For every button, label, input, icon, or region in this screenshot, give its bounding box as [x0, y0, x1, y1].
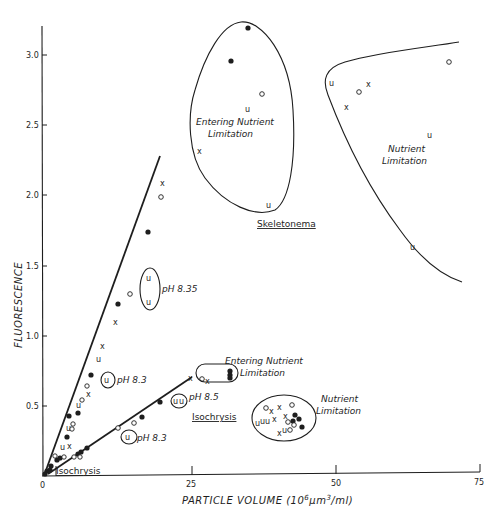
filled-circle-marker [296, 416, 301, 421]
isochrysis-entering-label-2: Limitation [240, 368, 285, 378]
open-circle-marker [288, 428, 293, 433]
x-axis [42, 472, 480, 476]
open-circle-marker [260, 92, 265, 97]
y-tick-1.0: 1.0 [26, 332, 39, 341]
open-circle-marker [116, 426, 121, 431]
skeletonema-label: Skeletonema [257, 219, 316, 229]
y-tick-2.5: 2.5 [26, 121, 39, 130]
axes: 3.0 2.5 2.0 1.5 1.0 0.5 0 25 50 75 FLUOR… [13, 26, 484, 506]
y-tick-1.5: 1.5 [26, 262, 39, 271]
isochrysis-nutrient-label: Nutrient [321, 394, 358, 404]
u-marker: u [427, 131, 432, 140]
filled-circle-marker [245, 25, 250, 30]
x-marker: x [100, 342, 105, 351]
filled-circle-marker [299, 424, 304, 429]
filled-circle-marker [145, 229, 150, 234]
filled-circle-marker [227, 375, 232, 380]
filled-circle-marker [84, 445, 89, 450]
open-circle-marker [292, 423, 297, 428]
filled-circle-marker [115, 301, 120, 306]
open-circle-marker [53, 454, 57, 458]
open-circle-marker [78, 455, 82, 459]
x-marker: x [272, 415, 277, 424]
open-circle-marker [70, 427, 74, 431]
open-circle-marker [159, 195, 164, 200]
isochrysis-low-label: Isochrysis [56, 466, 101, 476]
markers: u x u u x x u u x x x u x u u u x [42, 25, 451, 476]
filled-circle-marker [47, 467, 52, 472]
u-marker: u [96, 355, 101, 364]
x-marker: x [344, 103, 349, 112]
x-marker: x [113, 318, 118, 327]
skeletonema-entering-label: Entering Nutrient [196, 117, 274, 127]
open-circle-marker [132, 421, 137, 426]
skeletonema-nutrient-label-2: Limitation [382, 156, 427, 166]
skeletonema-nutrient-label: Nutrient [388, 144, 425, 154]
open-circle-marker [264, 406, 269, 411]
isochrysis-nutrient-label-2: Limitation [316, 406, 361, 416]
filled-circle-marker [66, 413, 71, 418]
filled-circle-marker [139, 414, 144, 419]
x-marker: x [197, 147, 202, 156]
steep-fit-line [45, 156, 160, 473]
x-marker: x [205, 377, 210, 386]
filled-circle-marker [88, 372, 93, 377]
annotations: Entering Nutrient Limitation Nutrient Li… [56, 117, 427, 476]
filled-circle-marker [42, 471, 47, 476]
u-marker: u [245, 105, 250, 114]
ph83-upper-label: pH 8.3 [116, 375, 147, 385]
u-marker: u [265, 417, 270, 426]
x-marker: x [366, 80, 371, 89]
skeletonema-entering-label-2: Limitation [208, 129, 253, 139]
u-marker: u [104, 376, 109, 385]
open-circle-marker [85, 384, 89, 388]
open-circle-marker [447, 60, 452, 65]
open-circle-marker [357, 90, 362, 95]
y-tick-3.0: 3.0 [26, 51, 39, 60]
filled-circle-marker [157, 399, 162, 404]
u-marker: u [329, 79, 334, 88]
u-marker: u [60, 443, 65, 452]
y-tick-2.0: 2.0 [26, 191, 39, 200]
open-circle-marker [62, 455, 66, 459]
y-axis [42, 26, 43, 476]
x-tick-75: 75 [474, 478, 484, 487]
u-marker: u [410, 243, 415, 252]
open-circle-marker [290, 403, 295, 408]
open-circle-marker [128, 292, 133, 297]
x-ticks: 0 25 50 75 [40, 464, 484, 490]
x-tick-0: 0 [40, 481, 45, 490]
u-marker: u [146, 274, 151, 283]
u-marker: u [146, 298, 151, 307]
x-axis-title: PARTICLE VOLUME (106µm3/ml) [182, 494, 353, 506]
isochrysis-mid-label: Isochrysis [192, 412, 237, 422]
y-tick-0.5: 0.5 [26, 402, 39, 411]
u-marker: u [179, 397, 184, 406]
u-marker: u [266, 201, 271, 210]
x-marker: x [67, 442, 72, 451]
x-tick-50: 50 [331, 479, 341, 488]
ph85-label: pH 8.5 [188, 392, 219, 402]
u-marker: u [282, 426, 287, 435]
open-circle-marker [72, 455, 76, 459]
y-ticks: 3.0 2.5 2.0 1.5 1.0 0.5 [26, 51, 47, 411]
x-tick-25: 25 [186, 480, 196, 489]
ph83-lower-label: pH 8.3 [136, 433, 167, 443]
u-marker: u [76, 401, 81, 410]
ph835-label: pH 8.35 [161, 284, 198, 294]
x-marker: x [160, 179, 165, 188]
u-marker: u [173, 397, 178, 406]
u-marker: u [125, 433, 130, 442]
filled-circle-marker [64, 434, 69, 439]
enclosures [101, 22, 462, 444]
x-marker: x [86, 390, 91, 399]
x-marker: x [188, 374, 193, 383]
filled-circle-marker [292, 412, 297, 417]
y-axis-title: FLUORESCENCE [13, 262, 24, 348]
open-circle-marker [286, 420, 291, 425]
open-circle-marker [71, 422, 75, 426]
chart: 3.0 2.5 2.0 1.5 1.0 0.5 0 25 50 75 FLUOR… [0, 0, 499, 517]
x-marker: x [277, 403, 282, 412]
filled-circle-marker [75, 410, 80, 415]
filled-circle-marker [228, 58, 233, 63]
